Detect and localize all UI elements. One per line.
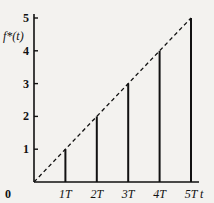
y-tick-label: 5 [23, 11, 29, 25]
y-ticks: 12345 [23, 11, 38, 156]
origin-label: 0 [5, 187, 11, 201]
y-tick-label: 3 [23, 77, 29, 91]
x-tick-label: 5T [185, 187, 199, 201]
x-tick-label: 2T [90, 187, 104, 201]
x-axis-label: t [200, 187, 204, 201]
y-tick-label: 4 [23, 44, 29, 58]
x-tick-label: 4T [153, 187, 167, 201]
y-tick-label: 2 [23, 109, 29, 123]
dashed-ramp-line [34, 18, 191, 182]
x-tick-label: 1T [59, 187, 73, 201]
x-ticks: 1T2T3T4T5T [59, 187, 199, 201]
stem-chart: 12345 1T2T3T4T5T 0 t f*(t) [0, 0, 214, 203]
y-axis-label: f*(t) [3, 29, 24, 43]
sample-stems [65, 18, 191, 182]
x-tick-label: 3T [121, 187, 136, 201]
y-tick-label: 1 [23, 142, 29, 156]
